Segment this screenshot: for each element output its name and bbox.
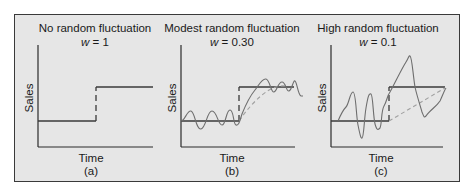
panel-b-forecast-line [239,86,285,121]
panel-b-xlabel: Time [219,152,244,164]
panel-c: High random fluctuation w = 0.1 Sales Ti… [316,22,446,177]
panel-b-weight: w = 0.30 [210,36,254,48]
panel-c-title: High random fluctuation [317,22,438,34]
panel-a: No random fluctuation w = 1 Sales Time (… [23,22,153,177]
panel-c-actual-line [338,56,446,138]
panel-c-caption: (c) [374,165,388,177]
panel-b-ylabel: Sales [166,83,178,112]
panel-b-title: Modest random fluctuation [164,22,300,34]
chart-figure: No random fluctuation w = 1 Sales Time (… [0,0,472,191]
panel-a-weight: w = 1 [81,36,109,48]
panel-b-caption: (b) [225,165,239,177]
panel-b: Modest random fluctuation w = 0.30 Sales… [164,22,303,177]
panel-a-xlabel: Time [78,152,103,164]
panel-c-ylabel: Sales [316,83,328,112]
panel-a-title: No random fluctuation [39,22,152,34]
panel-c-weight: w = 0.1 [359,36,396,48]
panel-c-xlabel: Time [368,152,393,164]
panel-a-ylabel: Sales [23,83,35,112]
panel-a-caption: (a) [84,165,98,177]
